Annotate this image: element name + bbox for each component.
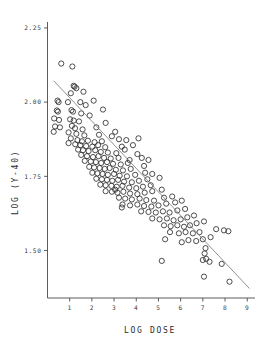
data-point-marker [121, 189, 126, 194]
regression-line [54, 81, 250, 289]
data-point-marker [145, 177, 150, 182]
data-point-marker [107, 165, 112, 170]
y-axis-ticks: 2.252.001.751.50 [24, 24, 47, 254]
data-point-marker [130, 143, 135, 148]
x-tick-label: 9 [245, 304, 249, 311]
scatter-plot-figure: 2.252.001.751.50 123456789 LOG (Y-40) LO… [0, 0, 263, 346]
data-point-marker [119, 205, 124, 210]
data-point-marker [200, 257, 205, 262]
data-point-marker [139, 209, 144, 214]
data-point-marker [149, 204, 154, 209]
x-axis-title: LOG DOSE [124, 326, 176, 335]
data-point-marker [95, 171, 100, 176]
data-point-marker [51, 129, 56, 134]
data-point-marker [91, 98, 96, 103]
data-point-marker [70, 64, 75, 69]
data-point-marker [194, 221, 199, 226]
data-point-marker [56, 117, 61, 122]
data-point-marker [173, 200, 178, 205]
data-point-marker [207, 259, 212, 264]
data-point-marker [127, 185, 132, 190]
data-point-marker [103, 189, 108, 194]
data-point-marker [65, 100, 70, 105]
data-point-marker [204, 256, 209, 261]
data-point-marker [96, 154, 101, 159]
data-point-marker [98, 182, 103, 187]
data-point-marker [191, 213, 196, 218]
data-point-marker [99, 160, 104, 165]
data-point-marker [124, 138, 129, 143]
data-point-marker [142, 190, 147, 195]
data-point-marker [159, 187, 164, 192]
data-point-marker [127, 203, 132, 208]
data-point-marker [83, 103, 88, 108]
data-point-marker [93, 159, 98, 164]
data-point-marker [69, 108, 74, 113]
data-point-marker [118, 162, 123, 167]
y-tick-label: 1.50 [24, 247, 41, 254]
data-point-marker [140, 184, 145, 189]
data-point-marker [99, 177, 104, 182]
data-point-marker [86, 149, 91, 154]
data-point-marker [90, 144, 95, 149]
data-point-marker [144, 197, 149, 202]
data-point-marker [52, 124, 57, 129]
data-point-marker [203, 246, 208, 251]
data-point-marker [151, 198, 156, 203]
data-point-marker [56, 100, 61, 105]
data-point-marker [146, 157, 151, 162]
data-point-marker [136, 136, 141, 141]
data-point-marker [185, 215, 190, 220]
data-point-marker [124, 174, 129, 179]
data-point-marker [150, 216, 155, 221]
data-point-marker [127, 191, 132, 196]
data-point-marker [202, 251, 207, 256]
x-tick-label: 2 [90, 304, 94, 311]
data-point-marker [57, 125, 62, 130]
data-point-marker [92, 165, 97, 170]
data-point-marker [105, 150, 110, 155]
data-point-marker [104, 159, 109, 164]
data-point-marker [119, 144, 124, 149]
data-point-marker [159, 258, 164, 263]
data-point-marker [190, 231, 195, 236]
data-point-marker [71, 118, 76, 123]
data-point-marker [120, 168, 125, 173]
data-point-marker [80, 127, 85, 132]
data-point-marker [79, 152, 84, 157]
data-point-marker [113, 129, 118, 134]
data-point-marker [129, 180, 134, 185]
data-point-marker [164, 216, 169, 221]
x-tick-label: 3 [112, 304, 116, 311]
data-point-marker [139, 155, 144, 160]
data-point-marker [157, 175, 162, 180]
data-point-marker [179, 240, 184, 245]
chart-canvas: 2.252.001.751.50 123456789 LOG (Y-40) LO… [0, 0, 263, 346]
data-point-marker [134, 186, 139, 191]
data-point-marker [194, 238, 199, 243]
data-point-marker [123, 196, 128, 201]
data-point-marker [82, 158, 87, 163]
data-point-marker [135, 151, 140, 156]
data-point-marker [141, 203, 146, 208]
data-point-marker [170, 194, 175, 199]
data-point-marker [150, 171, 155, 176]
data-point-marker [161, 223, 166, 228]
data-point-marker [59, 61, 64, 66]
data-point-marker [97, 165, 102, 170]
data-point-marker [129, 197, 134, 202]
y-tick-label: 1.75 [24, 173, 41, 180]
data-point-marker [143, 170, 148, 175]
data-point-marker [52, 116, 57, 121]
data-point-marker [68, 117, 73, 122]
data-point-marker [87, 164, 92, 169]
data-point-marker [181, 224, 186, 229]
data-point-marker [116, 155, 121, 160]
y-tick-label: 2.00 [24, 98, 41, 105]
data-point-marker [150, 189, 155, 194]
data-point-marker [76, 147, 81, 152]
x-tick-label: 4 [134, 304, 138, 311]
data-point-marker [110, 178, 115, 183]
scatter-points-group [51, 61, 232, 284]
x-tick-label: 1 [68, 304, 72, 311]
